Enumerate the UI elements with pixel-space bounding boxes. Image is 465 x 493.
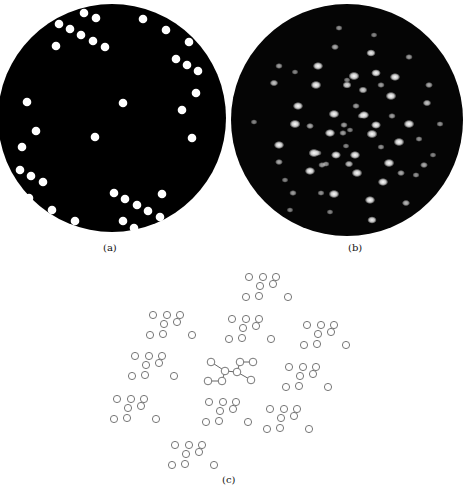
diffraction-spot (357, 113, 364, 119)
diffraction-spot (415, 136, 422, 142)
diffraction-spot (384, 159, 395, 167)
atom-circle (317, 321, 324, 328)
mask-hole (48, 206, 57, 215)
atom-circle (195, 448, 202, 455)
atom-circle (303, 321, 310, 328)
atom-circle (236, 358, 244, 366)
motif (282, 363, 331, 390)
diffraction-spot (378, 178, 388, 186)
atom-circle (204, 377, 212, 385)
atom-circle (314, 330, 321, 337)
atom-circle (146, 331, 153, 338)
diffraction-spot (343, 143, 350, 148)
atom-circle (272, 273, 279, 280)
diffraction-spot (359, 87, 368, 94)
diffraction-spot (436, 121, 443, 127)
atom-circle (176, 311, 183, 318)
atom-circle (249, 358, 257, 366)
atom-circle (205, 398, 212, 405)
atom-circle (282, 383, 289, 390)
mask-hole (71, 217, 80, 226)
diffraction-spot (292, 69, 299, 74)
atom-circle (127, 395, 134, 402)
motif (202, 398, 251, 425)
atom-circle (131, 352, 138, 359)
mask-hole (25, 194, 34, 203)
diffraction-spot (390, 73, 400, 81)
atom-circle (276, 424, 283, 431)
atom-circle (252, 322, 259, 329)
diffraction-spot (289, 190, 297, 196)
panel-a: (a) (0, 4, 226, 253)
atom-circle (269, 280, 276, 287)
diffraction-spot (293, 102, 303, 110)
mask-hole (192, 89, 201, 98)
atom-circle (313, 340, 320, 347)
atom-circle (312, 363, 319, 370)
mask-hole (188, 134, 197, 143)
diffraction-spot (331, 44, 339, 50)
diffraction-spot (347, 127, 354, 132)
mask-hole (27, 172, 36, 181)
atom-circle (263, 425, 270, 432)
atom-circle (207, 358, 215, 366)
atom-circle (255, 315, 262, 322)
diffraction-spot (425, 82, 433, 88)
diffraction-spot (371, 121, 381, 129)
panel-a-label: (a) (103, 242, 117, 253)
mask-hole (185, 38, 194, 47)
atom-circle (145, 352, 152, 359)
mask-hole (133, 201, 142, 210)
atom-circle (113, 395, 120, 402)
atom-circle (221, 367, 229, 375)
mask-hole (130, 224, 139, 233)
atom-circle (284, 293, 291, 300)
diffraction-spot (405, 54, 413, 60)
diffraction-spot (423, 100, 432, 107)
atom-circle (128, 372, 135, 379)
atom-circle (185, 441, 192, 448)
atom-circle (163, 311, 170, 318)
diffraction-disk (231, 4, 463, 236)
atom-circle (266, 405, 273, 412)
atom-circle (152, 415, 159, 422)
atom-circle (242, 315, 249, 322)
atom-circle (158, 352, 165, 359)
diffraction-spot (340, 122, 348, 128)
diffraction-spot (325, 129, 335, 137)
mask-hole (101, 43, 110, 52)
diffraction-spot (339, 130, 347, 136)
atom-circle (141, 371, 148, 378)
atom-circle (229, 405, 236, 412)
diffraction-spot (289, 120, 300, 129)
atom-circle (242, 293, 249, 300)
diffraction-spot (275, 159, 283, 165)
diffraction-spot (313, 62, 323, 70)
atom-circle (228, 315, 235, 322)
atom-circle (171, 441, 178, 448)
mask-hole (119, 99, 128, 108)
diffraction-spot (367, 216, 376, 223)
diffraction-spot (352, 103, 360, 109)
diffraction-spot (348, 72, 359, 81)
mask-hole (194, 67, 203, 76)
diffraction-spot (412, 172, 419, 178)
diffraction-spot (335, 25, 342, 31)
atom-circle (182, 450, 189, 457)
atom-circle (244, 418, 251, 425)
atom-circle (216, 407, 223, 414)
atom-circle (245, 273, 252, 280)
mask-disk (0, 4, 226, 232)
figure: (a) (b) (c) (0, 0, 465, 493)
atom-circle (295, 382, 302, 389)
diffraction-spot (377, 82, 385, 88)
atom-circle (124, 404, 131, 411)
motif (146, 311, 195, 338)
diffraction-spot (397, 170, 405, 176)
atom-circle (239, 324, 246, 331)
motif (128, 352, 177, 379)
diffraction-spot (287, 207, 294, 212)
atom-circle (123, 414, 130, 421)
atom-circle (137, 402, 144, 409)
mask-hole (91, 133, 100, 142)
